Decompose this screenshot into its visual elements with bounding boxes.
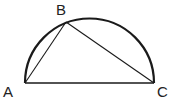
semicircle-arc [25,19,154,84]
label-a: A [3,83,13,100]
label-c: C [157,83,168,100]
segment-ab [25,22,66,83]
segment-bc [66,22,154,83]
geometry-diagram: A B C [0,0,173,101]
label-b: B [56,1,66,18]
